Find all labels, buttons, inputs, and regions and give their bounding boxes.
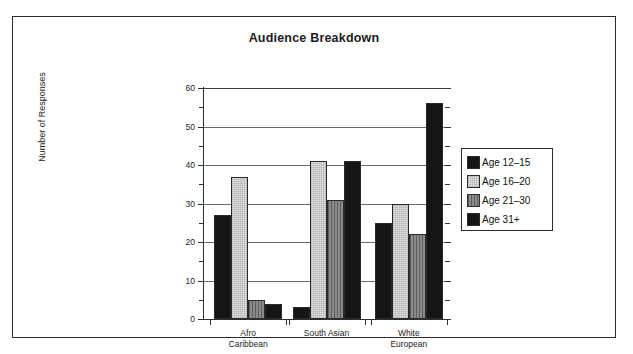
y-axis-tick-label: 10 (169, 276, 195, 286)
y-axis-minor-tick-right (445, 261, 450, 262)
legend-label: Age 31+ (482, 214, 520, 225)
plot-area (204, 88, 445, 319)
bar (293, 307, 310, 319)
y-axis-minor-tick-right (445, 107, 450, 108)
legend-label: Age 12–15 (482, 157, 530, 168)
category-label-line: Afro (203, 328, 293, 339)
legend-swatch (467, 156, 480, 169)
legend-item: Age 21–30 (467, 191, 552, 210)
legend-item: Age 31+ (467, 210, 552, 229)
y-axis-minor-tick-right (445, 223, 450, 224)
y-axis-tick-right (445, 204, 451, 205)
bar (409, 234, 426, 319)
x-axis-group-tick (365, 319, 366, 325)
y-axis-tick-label: 60 (169, 83, 195, 93)
bar (231, 177, 248, 319)
legend-item: Age 16–20 (467, 172, 552, 191)
y-axis-tick-label: 50 (169, 122, 195, 132)
legend-label: Age 16–20 (482, 176, 530, 187)
x-axis-category-label: AfroCaribbean (203, 328, 293, 350)
bar (375, 223, 392, 319)
y-axis-tick (198, 319, 204, 320)
legend: Age 12–15Age 16–20Age 21–30Age 31+ (461, 148, 553, 231)
chart-page: Audience Breakdown Number of Responses 0… (0, 0, 633, 354)
x-axis-category-label: South Asian (282, 328, 372, 339)
category-label-line: South Asian (282, 328, 372, 339)
y-axis-minor-tick-right (445, 300, 450, 301)
bar (248, 300, 265, 319)
legend-swatch (467, 213, 480, 226)
y-axis-minor-tick-right (445, 184, 450, 185)
category-label-line: European (364, 339, 454, 350)
x-axis-group-tick (447, 319, 448, 325)
y-axis-tick-right (445, 242, 451, 243)
y-axis-tick-right (445, 165, 451, 166)
category-label-line: White (364, 328, 454, 339)
y-axis-tick-right (445, 88, 451, 89)
x-axis-group-tick (210, 319, 211, 325)
y-axis-tick-right (445, 281, 451, 282)
chart-frame: Audience Breakdown Number of Responses 0… (12, 16, 616, 338)
y-axis-title: Number of Responses (37, 42, 47, 192)
x-axis-category-label: WhiteEuropean (364, 328, 454, 350)
y-axis-tick-label: 20 (169, 237, 195, 247)
x-axis-group-tick (289, 319, 290, 325)
x-axis-group-tick (286, 319, 287, 325)
page-title: Audience Breakdown (13, 31, 615, 45)
category-label-line: Caribbean (203, 339, 293, 350)
bar (392, 204, 409, 320)
y-axis-tick-label: 40 (169, 160, 195, 170)
x-axis-line (204, 319, 446, 320)
x-axis-group-tick (371, 319, 372, 325)
y-axis-tick-label: 0 (169, 314, 195, 324)
legend-swatch (467, 194, 480, 207)
bar (327, 200, 344, 319)
y-axis-tick-right (445, 127, 451, 128)
bar (426, 103, 443, 319)
legend-label: Age 21–30 (482, 195, 530, 206)
legend-swatch (467, 175, 480, 188)
legend-item: Age 12–15 (467, 153, 552, 172)
y-axis-minor-tick-right (445, 146, 450, 147)
bar (310, 161, 327, 319)
y-axis-tick-label: 30 (169, 199, 195, 209)
bar (214, 215, 231, 319)
bar (344, 161, 361, 319)
bar (265, 304, 282, 319)
